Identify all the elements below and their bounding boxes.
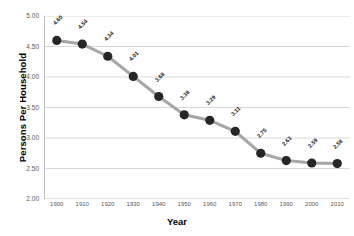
data-point-marker[interactable] [180, 110, 189, 119]
data-point-marker[interactable] [154, 92, 163, 101]
data-point-marker[interactable] [205, 116, 214, 125]
x-axis-tick-label: 2010 [322, 201, 352, 207]
y-axis-tick-label: 3.00 [5, 134, 39, 141]
data-point-marker[interactable] [333, 159, 342, 168]
chart-container: Persons Per Household 5.004.504.003.503.… [0, 0, 354, 236]
chart-svg [44, 16, 350, 199]
x-axis-title: Year [0, 216, 354, 227]
y-axis-tick-label: 2.50 [5, 165, 39, 172]
y-axis-tick-label: 2.00 [5, 195, 39, 202]
data-point-marker[interactable] [307, 158, 316, 167]
data-point-marker[interactable] [78, 39, 87, 48]
y-axis-tick-label: 5.00 [5, 12, 39, 19]
y-axis-tick-label: 3.50 [5, 104, 39, 111]
y-axis-tick-label: 4.00 [5, 73, 39, 80]
data-line [57, 40, 338, 163]
data-point-marker[interactable] [256, 149, 265, 158]
data-point-marker[interactable] [129, 72, 138, 81]
data-point-marker[interactable] [103, 52, 112, 61]
y-axis-tick-label: 4.50 [5, 43, 39, 50]
plot-area: 4.604.544.344.013.683.383.293.112.752.63… [44, 16, 350, 199]
data-point-marker[interactable] [231, 127, 240, 136]
data-point-marker[interactable] [282, 156, 291, 165]
data-point-marker[interactable] [52, 36, 61, 45]
